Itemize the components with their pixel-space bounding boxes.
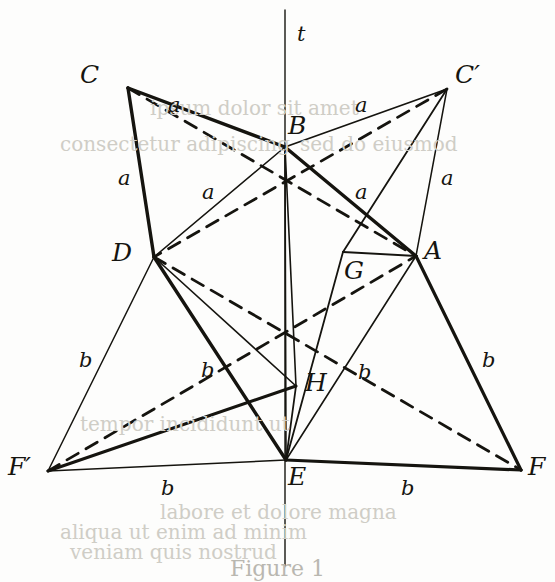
point-label-E: E: [288, 464, 306, 489]
segment-label-F-prime-E: b: [161, 478, 174, 499]
segment-label-C-D: a: [118, 168, 131, 189]
segment-label-D-F-prime: b: [79, 350, 92, 371]
point-label-D: D: [112, 240, 132, 265]
point-label-F: F: [528, 454, 545, 479]
ghost-text-line: ipsum dolor sit amet: [150, 96, 359, 120]
edge-D-B: [154, 147, 285, 257]
geometry-figure: ipsum dolor sit ametconsectetur adipisci…: [0, 0, 555, 582]
ghost-text-line: sed do eiusmod: [300, 132, 458, 156]
edge-Fp-E: [48, 460, 286, 471]
segment-label-A-F: b: [482, 350, 495, 371]
segment-label-A-C-prime: a: [441, 168, 454, 189]
segment-label-D-E: b: [201, 360, 214, 381]
edge-layer: [48, 10, 521, 566]
point-label-B: B: [288, 113, 306, 138]
ghost-text-line: consectetur adipiscing: [60, 132, 290, 156]
segment-label-E-A: b: [358, 362, 371, 383]
edge-A-F: [416, 256, 521, 470]
segment-label-C-B: a: [168, 95, 181, 116]
segment-label-D-B: a: [202, 182, 215, 203]
point-label-Cp: C′: [455, 62, 480, 87]
segment-label-B-C-prime: a: [355, 95, 368, 116]
point-label-C: C: [80, 62, 99, 87]
segment-label-B-A: a: [355, 182, 368, 203]
point-label-G: G: [344, 258, 364, 283]
figure-caption: Figure 1: [0, 556, 555, 581]
edge-E-F: [286, 460, 521, 470]
point-label-H: H: [305, 370, 327, 395]
axis-label-t: t: [297, 24, 305, 45]
point-label-Fp: F′: [8, 454, 31, 479]
edge-E-A: [286, 256, 416, 460]
ghost-text-line: tempor incididunt ut: [80, 412, 290, 436]
point-label-A: A: [424, 238, 442, 263]
segment-label-E-F: b: [401, 478, 414, 499]
